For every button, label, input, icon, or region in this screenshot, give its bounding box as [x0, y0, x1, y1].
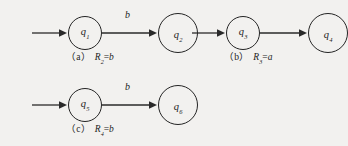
start-arrow-b	[192, 27, 226, 39]
state-q1: q1	[68, 16, 102, 50]
caption-b-tag: （b）	[224, 52, 249, 62]
caption-b-expression: R3=a	[253, 52, 272, 62]
state-q1-label: q1	[81, 27, 90, 40]
automaton-panel-c: q5 b q6 （c）R4=b	[14, 76, 174, 124]
state-q4: q4	[308, 13, 348, 53]
automaton-diagram-b: q3 q4	[190, 4, 330, 52]
transition-arrow-c	[102, 99, 158, 111]
state-q5-label: q5	[81, 99, 90, 112]
state-q4-inner-ring: q4	[324, 24, 333, 43]
state-q3-label: q3	[239, 27, 248, 40]
caption-a-expression: R2=b	[95, 52, 114, 62]
transition-arrow-a	[102, 27, 158, 39]
start-arrow-a	[32, 27, 68, 39]
caption-a-tag: （a）	[66, 52, 91, 62]
caption-b: （b）R3=a	[224, 53, 272, 64]
automaton-panel-a: q1 b q2 （a）R2=b	[14, 4, 174, 52]
state-q3: q3	[226, 16, 260, 50]
start-arrow-c	[32, 99, 68, 111]
state-q2-inner-ring: q2	[174, 24, 183, 43]
state-q6-inner-ring: q6	[174, 96, 183, 115]
automaton-panel-b: q3 q4 （b）R3=a	[190, 4, 330, 52]
state-q6: q6	[158, 85, 198, 125]
state-q6-label: q6	[174, 101, 183, 112]
transition-symbol-a: b	[125, 10, 130, 20]
caption-c-tag: （c）	[66, 124, 91, 134]
transition-arrow-b	[260, 27, 308, 39]
state-q5: q5	[68, 88, 102, 122]
automaton-diagram-a: q1 b q2	[14, 4, 174, 52]
state-q4-label: q4	[324, 29, 333, 40]
caption-a: （a）R2=b	[66, 53, 114, 64]
caption-c-expression: R4=b	[95, 124, 114, 134]
caption-c: （c）R4=b	[66, 125, 114, 136]
state-q2-label: q2	[174, 29, 183, 40]
automaton-diagram-c: q5 b q6	[14, 76, 174, 124]
transition-symbol-c: b	[125, 82, 130, 92]
